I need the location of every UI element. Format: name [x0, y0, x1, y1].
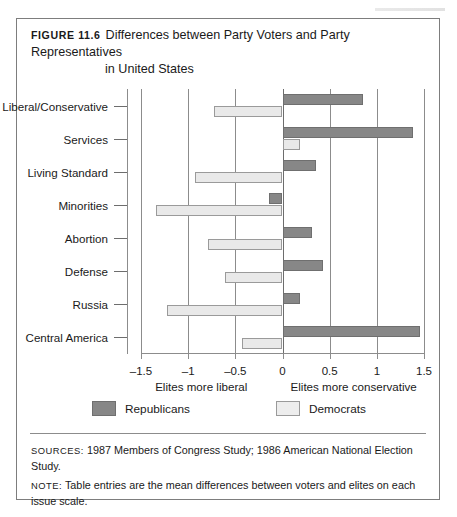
legend-swatch-democrats [276, 401, 300, 416]
bar-democrats-minorities [156, 205, 282, 216]
axis-note-right: Elites more conservative [291, 380, 417, 393]
x-tick-label: 1 [374, 365, 380, 377]
category-label-abortion: Abortion [65, 232, 108, 245]
y-tick [114, 238, 127, 239]
x-tick [424, 354, 425, 359]
bar-republicans-abortion [283, 227, 312, 238]
x-tick-label: 0.5 [322, 365, 338, 377]
y-tick [114, 139, 127, 140]
sources-note: Sources: 1987 Members of Congress Study;… [31, 443, 429, 474]
bar-democrats-central-america [242, 338, 283, 349]
x-tick-label: 0 [279, 365, 285, 377]
bar-democrats-services [283, 139, 301, 150]
gridline-1_5 [424, 89, 425, 354]
chart-canvas: –1.5–1–0.500.511.5Liberal/ConservativeSe… [141, 89, 424, 354]
x-tick [283, 354, 284, 359]
note-label: Note: [31, 480, 62, 491]
bar-republicans-russia [283, 293, 301, 304]
legend-label-democrats: Democrats [309, 402, 366, 416]
bar-republicans-services [283, 127, 413, 138]
y-tick [114, 337, 127, 338]
axis-note-left: Elites more liberal [155, 380, 247, 393]
bar-democrats-defense [225, 272, 283, 283]
legend-item-democrats: Democrats [276, 401, 366, 416]
y-tick [114, 106, 127, 107]
x-tick [141, 354, 142, 359]
chart-legend: Republicans Democrats [17, 401, 441, 416]
figure-container: Figure 11.6Differences between Party Vot… [16, 18, 440, 500]
y-tick [114, 172, 127, 173]
bar-republicans-defense [283, 260, 324, 271]
y-tick [114, 304, 127, 305]
x-tick-label: –1 [182, 365, 195, 377]
category-label-minorities: Minorities [58, 198, 108, 211]
x-axis-line [141, 353, 424, 354]
footer-divider [30, 433, 426, 434]
category-label-living-standard: Living Standard [27, 165, 108, 178]
x-tick-label: 1.5 [416, 365, 432, 377]
y-tick [114, 271, 127, 272]
category-label-liberal-conservative: Liberal/Conservative [2, 99, 108, 112]
note-note: Note: Table entries are the mean differe… [31, 478, 429, 509]
figure-caption: Figure 11.6Differences between Party Vot… [31, 27, 427, 78]
chart-plot-area: –1.5–1–0.500.511.5Liberal/ConservativeSe… [17, 79, 441, 369]
bar-democrats-russia [167, 305, 282, 316]
y-axis-line [127, 89, 128, 354]
category-label-services: Services [64, 132, 108, 145]
legend-swatch-republicans [92, 401, 116, 416]
figure-title-line2: in United States [105, 61, 427, 78]
bar-republicans-minorities [269, 193, 282, 204]
bar-republicans-central-america [283, 326, 421, 337]
sources-label: Sources: [31, 445, 84, 456]
bar-democrats-liberal-conservative [214, 106, 283, 117]
bar-republicans-liberal-conservative [283, 94, 363, 105]
x-tick [235, 354, 236, 359]
y-tick [114, 205, 127, 206]
legend-label-republicans: Republicans [125, 402, 190, 416]
page-top-rule [375, 8, 445, 11]
x-tick [188, 354, 189, 359]
note-text: Table entries are the mean differences b… [31, 479, 415, 507]
x-tick-label: –0.5 [224, 365, 246, 377]
bar-democrats-living-standard [195, 172, 283, 183]
x-tick [330, 354, 331, 359]
category-label-central-america: Central America [26, 331, 108, 344]
x-tick-label: –1.5 [130, 365, 152, 377]
figure-number: Figure 11.6 [31, 29, 101, 41]
bar-republicans-living-standard [283, 160, 317, 171]
x-tick [377, 354, 378, 359]
figure-footnotes: Sources: 1987 Members of Congress Study;… [31, 443, 429, 513]
sources-text: 1987 Members of Congress Study; 1986 Ame… [31, 444, 413, 472]
bar-democrats-abortion [208, 239, 283, 250]
category-label-defense: Defense [65, 265, 108, 278]
legend-item-republicans: Republicans [92, 401, 190, 416]
category-label-russia: Russia [73, 298, 108, 311]
gridline-neg1_5 [141, 89, 142, 354]
